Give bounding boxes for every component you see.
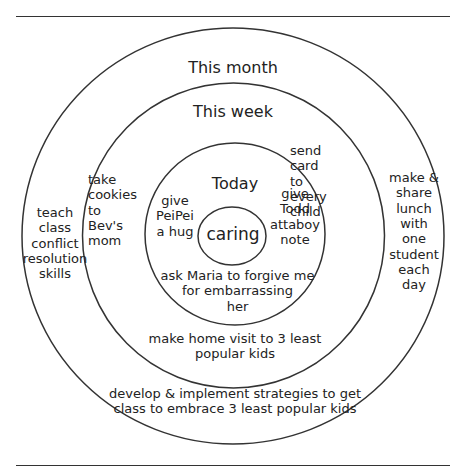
month-item-embrace-strategies: develop & implement strategies to get cl… [100,386,370,417]
today-item-ask-maria: ask Maria to forgive me for embarrassing… [145,268,330,314]
week-title: This week [163,103,303,122]
week-item-home-visit: make home visit to 3 least popular kids [140,331,330,362]
week-item-take-cookies: take cookies to Bev's mom [88,172,146,249]
month-title: This month [163,59,303,78]
month-item-conflict-skills: teach class conflict resolution skills [20,205,90,282]
month-item-share-lunch: make & share lunch with one student each… [379,170,449,293]
today-item-todd-note: give Todd attaboy note [265,186,325,247]
today-item-hug-peipei: give PeiPei a hug [150,193,200,239]
today-title: Today [195,175,275,194]
core-value: caring [198,224,268,244]
